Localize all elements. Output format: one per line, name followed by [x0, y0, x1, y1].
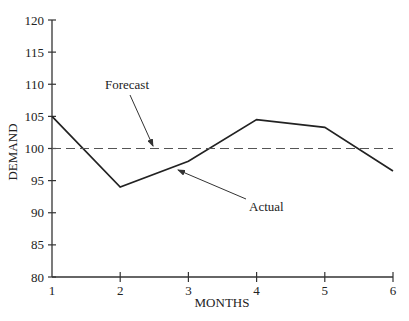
x-axis-label: MONTHS: [195, 295, 250, 310]
annotations: [130, 95, 246, 199]
y-tick-label: 90: [31, 205, 44, 220]
series-layer: [52, 116, 393, 187]
forecast-label: Forecast: [105, 77, 149, 92]
x-tick-label: 2: [117, 283, 124, 298]
y-tick-label: 120: [25, 13, 45, 28]
y-tick-label: 85: [31, 237, 44, 252]
y-axis-label: DEMAND: [5, 123, 20, 180]
x-tick-label: 5: [322, 283, 329, 298]
forecast-arrow: [130, 95, 153, 146]
y-tick-label: 110: [25, 77, 44, 92]
x-tick-label: 1: [49, 283, 56, 298]
actual-label: Actual: [249, 199, 284, 214]
y-tick-label: 80: [31, 270, 44, 285]
x-tick-label: 4: [253, 283, 260, 298]
y-tick-label: 105: [25, 109, 45, 124]
actual-line: [52, 116, 393, 187]
y-tick-label: 100: [25, 141, 45, 156]
y-tick-label: 95: [31, 173, 44, 188]
x-tick-label: 6: [390, 283, 397, 298]
x-tick-label: 3: [185, 283, 192, 298]
y-tick-label: 115: [25, 45, 44, 60]
axis-ticks: 80859095100105110115120123456: [25, 13, 397, 299]
demand-line-chart: 80859095100105110115120123456 MONTHS DEM…: [0, 0, 409, 321]
actual-arrow: [178, 170, 246, 199]
